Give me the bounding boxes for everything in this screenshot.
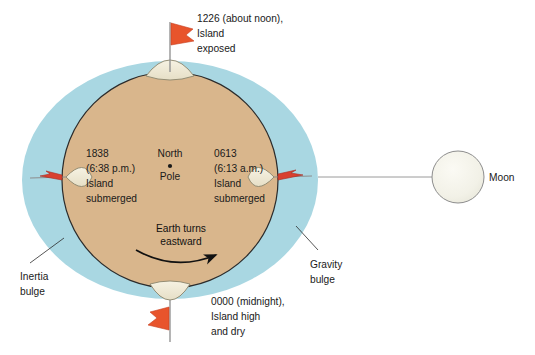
label-evening-line2: (6:38 p.m.) — [86, 163, 135, 174]
label-morning-line2: (6:13 a.m.) — [214, 163, 263, 174]
inertia-bulge-label-line2: bulge — [20, 286, 45, 297]
label-noon-line3: exposed — [197, 43, 236, 54]
north-pole-label-line2: Pole — [160, 171, 181, 182]
label-midnight-clock: 0000 (midnight), — [211, 296, 285, 307]
moon-label: Moon — [489, 172, 514, 183]
moon-circle — [432, 151, 484, 203]
label-evening-line3: Island — [86, 178, 114, 189]
gravity-bulge-label-line2: bulge — [310, 274, 335, 285]
north-pole-label-line1: North — [158, 148, 183, 159]
inertia-bulge-label-line1: Inertia — [20, 271, 49, 282]
label-morning-line4: submerged — [214, 193, 265, 204]
tide-diagram-canvas: Moon North Pole Earth turns eastward 122… — [0, 0, 535, 355]
rotation-label-line1: Earth turns — [156, 223, 206, 234]
gravity-bulge-label-line1: Gravity — [310, 259, 343, 270]
rotation-label-line2: eastward — [160, 236, 202, 247]
label-morning-clock: 0613 — [214, 148, 237, 159]
label-midnight-line2: Island high — [211, 311, 260, 322]
north-pole-dot — [168, 164, 172, 168]
label-evening-line4: submerged — [86, 193, 137, 204]
label-noon-clock: 1226 (about noon), — [197, 13, 283, 24]
label-evening-clock: 1838 — [86, 148, 109, 159]
tide-diagram-figure: Moon North Pole Earth turns eastward 122… — [0, 0, 535, 355]
label-morning-line3: Island — [214, 178, 242, 189]
label-midnight-line3: and dry — [211, 326, 246, 337]
label-noon-line2: Island — [197, 28, 225, 39]
